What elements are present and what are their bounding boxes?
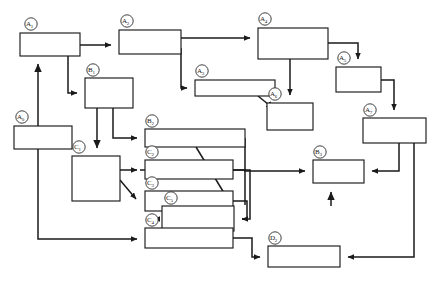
node-C5[interactable] <box>162 206 234 231</box>
edge-a1-b1 <box>68 56 77 93</box>
tag-B1: B1 <box>87 64 99 76</box>
node-C1[interactable] <box>72 156 120 201</box>
node-C4[interactable] <box>145 228 233 248</box>
node-A3[interactable] <box>195 80 275 96</box>
node-A4[interactable] <box>258 28 328 59</box>
tag-A2: A2 <box>121 15 133 27</box>
edge-c1-c3 <box>120 180 136 199</box>
edge-b2-b3 <box>245 138 305 171</box>
tag-C5: C5 <box>165 192 177 204</box>
node-A0[interactable] <box>14 126 72 149</box>
node-C2[interactable] <box>145 160 233 179</box>
node-A5[interactable] <box>336 67 381 92</box>
edge-a2-a3 <box>181 48 187 88</box>
tag-C1: C1 <box>73 141 85 153</box>
tag-D2: D2 <box>269 232 281 244</box>
node-A7[interactable] <box>363 118 426 143</box>
flow-diagram-canvas: A1 A2 A4 A5 B1 A3 <box>0 0 436 286</box>
node-A1[interactable] <box>20 33 80 56</box>
tag-C4: C4 <box>146 214 158 226</box>
edge-a5-a7 <box>381 80 394 110</box>
tag-B3: B3 <box>314 146 326 158</box>
tag-A3: A3 <box>196 65 208 77</box>
edge-c2-elbow <box>233 170 245 205</box>
flow-diagram-svg: A1 A2 A4 A5 B1 A3 <box>0 0 436 286</box>
node-B3[interactable] <box>313 160 364 183</box>
tag-A7: A7 <box>364 104 376 116</box>
edge-b1-b2 <box>113 108 137 138</box>
tag-A0: A0 <box>16 111 28 123</box>
node-B1[interactable] <box>85 78 133 108</box>
tag-B2: B2 <box>146 115 158 127</box>
tag-A1: A1 <box>25 18 37 30</box>
node-A6[interactable] <box>267 103 313 130</box>
node-D2[interactable] <box>268 246 340 267</box>
tag-A5: A5 <box>338 52 350 64</box>
edge-a7-b3 <box>372 143 399 171</box>
tag-C3: C3 <box>146 177 158 189</box>
tag-A4: A4 <box>259 13 271 25</box>
edge-c4-d2 <box>233 238 260 257</box>
tag-C2: C2 <box>146 146 158 158</box>
node-B2[interactable] <box>145 129 245 147</box>
tag-A6: A6 <box>269 88 281 100</box>
node-A2[interactable] <box>119 30 181 54</box>
